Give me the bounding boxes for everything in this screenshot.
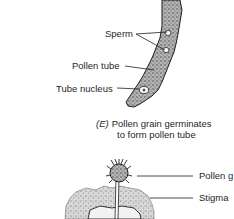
caption-tag: (E) [96,118,109,129]
label-tube-nucleus: Tube nucleus [56,84,113,94]
label-stigma: Stigma [199,193,229,203]
label-pollen-tube: Pollen tube [72,61,120,71]
caption-line-2: to form pollen tube [117,129,196,140]
germinating-tube-shape [115,178,119,219]
label-pollen-grain: Pollen g [199,171,233,181]
sperm-cell-1 [165,31,171,36]
pollen-grain-shape [106,159,132,183]
sperm-cell-2 [163,48,169,53]
stigma-shape [65,186,154,219]
label-sperm: Sperm [105,29,133,39]
caption-line-1: Pollen grain germinates [112,118,212,129]
pollen-tube-shape [126,0,182,107]
caption-panel-e: (E)Pollen grain germinates to form polle… [96,118,211,140]
